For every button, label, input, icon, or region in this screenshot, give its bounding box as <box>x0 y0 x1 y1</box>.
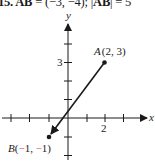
y-axis <box>64 24 72 160</box>
point-a-label: A(2, 3) <box>93 45 126 58</box>
y-tick-label-3: 3 <box>57 56 63 68</box>
point-a-dot <box>102 60 107 65</box>
point-a-coords: (2, 3) <box>102 45 126 58</box>
x-axis <box>2 114 147 122</box>
x-tick-label-2: 2 <box>101 122 107 134</box>
point-b-dot <box>47 135 52 140</box>
point-a-name: A <box>93 45 101 57</box>
x-axis-label: x <box>148 111 154 123</box>
coordinate-plane: x 2 y 3 A(2, 3) B(−1, −1) <box>0 0 155 163</box>
point-b-close-paren: ) <box>47 142 51 155</box>
vector-ab-arrow <box>51 63 105 135</box>
y-axis-label: y <box>65 9 71 21</box>
point-b-label: B(−1, −1) <box>8 142 51 155</box>
